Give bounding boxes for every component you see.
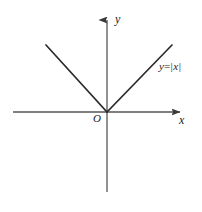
curve-equation-label: y=|x| xyxy=(159,61,181,72)
figure-canvas: y x O y=|x| xyxy=(0,0,202,212)
graph-svg xyxy=(0,0,202,212)
y-axis-label: y xyxy=(115,13,120,25)
curve-label-bar-close: | xyxy=(178,60,181,72)
origin-label: O xyxy=(93,113,101,124)
absolute-value-curve xyxy=(46,45,172,112)
x-axis-label: x xyxy=(179,114,184,126)
